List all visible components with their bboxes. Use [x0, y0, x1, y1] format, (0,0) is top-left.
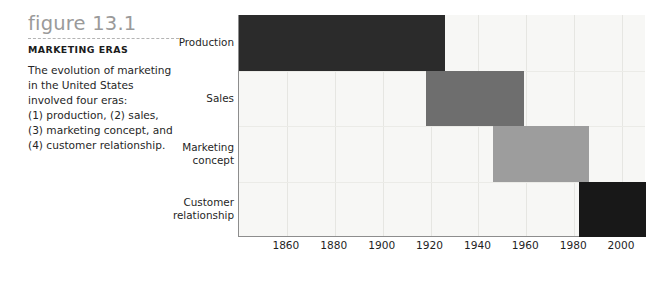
- x-tick-label-1900: 1900: [368, 239, 395, 251]
- x-tick-label-1980: 1980: [560, 239, 587, 251]
- x-tick-label-2000: 2000: [608, 239, 635, 251]
- bar-production: [239, 15, 445, 71]
- x-axis-tick-labels: 18601880190019201940196019802000: [238, 239, 645, 259]
- x-tick-label-1880: 1880: [320, 239, 347, 251]
- category-label-0: Production: [134, 36, 234, 49]
- x-tick-label-1940: 1940: [464, 239, 491, 251]
- caption-body-line: (3) marketing concept, and: [28, 123, 186, 138]
- bar-marketing-concept: [493, 126, 589, 182]
- bar-sales: [426, 71, 524, 127]
- x-tick-label-1860: 1860: [272, 239, 299, 251]
- x-tick-label-1960: 1960: [512, 239, 539, 251]
- x-tick-label-1920: 1920: [416, 239, 443, 251]
- category-label-2: Marketing concept: [134, 141, 234, 167]
- category-label-3: Customer relationship: [134, 196, 234, 222]
- marketing-eras-chart: ProductionSalesMarketing conceptCustomer…: [186, 15, 648, 265]
- caption-body: The evolution of marketingin the United …: [28, 63, 186, 153]
- category-label-1: Sales: [134, 92, 234, 105]
- caption-body-line: (1) production, (2) sales,: [28, 108, 186, 123]
- caption-body-line: in the United States: [28, 78, 186, 93]
- figure-number: figure 13.1: [28, 14, 186, 34]
- figure-caption-panel: figure 13.1 MARKETING ERAS The evolution…: [28, 14, 186, 153]
- bar-customer-relationship: [579, 182, 646, 238]
- plot-area: [238, 15, 645, 237]
- caption-body-line: The evolution of marketing: [28, 63, 186, 78]
